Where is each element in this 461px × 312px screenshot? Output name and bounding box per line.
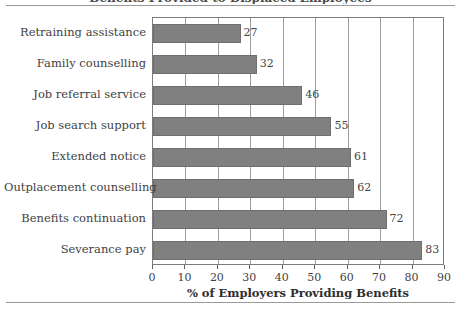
chart-figure: Benefits Provided to Displaced Employees… bbox=[0, 0, 461, 312]
tick-label: 0 bbox=[137, 272, 167, 283]
bar bbox=[153, 86, 302, 105]
bar-value-label: 61 bbox=[354, 151, 368, 162]
bar-row bbox=[153, 179, 443, 198]
bar-value-label: 83 bbox=[425, 244, 439, 255]
plot-area bbox=[152, 17, 444, 265]
tick-mark bbox=[444, 265, 445, 269]
category-label: Outplacement counselling bbox=[4, 182, 146, 194]
bar-value-label: 72 bbox=[390, 213, 404, 224]
tick-mark bbox=[412, 265, 413, 269]
bar-value-label: 32 bbox=[260, 58, 274, 69]
tick-mark bbox=[152, 265, 153, 269]
category-label: Benefits continuation bbox=[4, 213, 146, 225]
bar bbox=[153, 24, 241, 43]
tick-label: 70 bbox=[364, 272, 394, 283]
bar-row bbox=[153, 117, 443, 136]
bar-series bbox=[153, 18, 443, 264]
tick-mark bbox=[347, 265, 348, 269]
bar-value-label: 46 bbox=[305, 89, 319, 100]
tick-label: 90 bbox=[429, 272, 459, 283]
bar-value-label: 27 bbox=[244, 27, 258, 38]
tick-label: 50 bbox=[299, 272, 329, 283]
tick-label: 30 bbox=[234, 272, 264, 283]
bar bbox=[153, 148, 351, 167]
category-label: Severance pay bbox=[4, 244, 146, 256]
bar bbox=[153, 55, 257, 74]
x-axis-title: % of Employers Providing Benefits bbox=[152, 286, 444, 300]
bar-value-label: 62 bbox=[357, 182, 371, 193]
bar bbox=[153, 210, 387, 229]
tick-mark bbox=[379, 265, 380, 269]
figure-title-clipped: Benefits Provided to Displaced Employees bbox=[0, 0, 461, 4]
tick-label: 10 bbox=[169, 272, 199, 283]
bottom-divider-rule bbox=[6, 302, 455, 303]
tick-label: 60 bbox=[332, 272, 362, 283]
category-label: Retraining assistance bbox=[4, 27, 146, 39]
tick-mark bbox=[314, 265, 315, 269]
top-divider-rule bbox=[6, 5, 455, 6]
bar-row bbox=[153, 148, 443, 167]
bar bbox=[153, 117, 331, 136]
tick-mark bbox=[249, 265, 250, 269]
tick-label: 40 bbox=[267, 272, 297, 283]
tick-label: 20 bbox=[202, 272, 232, 283]
bar-row bbox=[153, 86, 443, 105]
tick-mark bbox=[184, 265, 185, 269]
category-label: Job referral service bbox=[4, 89, 146, 101]
tick-label: 80 bbox=[397, 272, 427, 283]
category-label: Extended notice bbox=[4, 151, 146, 163]
category-label: Family counselling bbox=[4, 58, 146, 70]
category-label: Job search support bbox=[4, 120, 146, 132]
bar-row bbox=[153, 24, 443, 43]
bar-value-label: 55 bbox=[334, 120, 348, 131]
bar bbox=[153, 179, 354, 198]
tick-mark bbox=[217, 265, 218, 269]
bar-row bbox=[153, 241, 443, 260]
bar bbox=[153, 241, 422, 260]
bar-row bbox=[153, 55, 443, 74]
tick-mark bbox=[282, 265, 283, 269]
